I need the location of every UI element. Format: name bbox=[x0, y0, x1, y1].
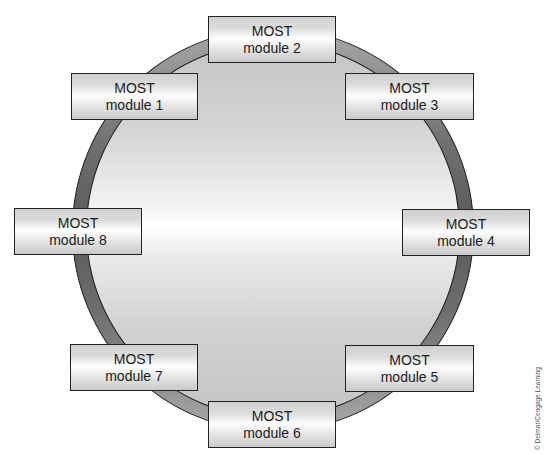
most-module-8: MOST module 8 bbox=[14, 208, 142, 255]
most-module-4: MOST module 4 bbox=[402, 209, 530, 256]
module-2-title: MOST bbox=[252, 23, 292, 40]
module-4-title: MOST bbox=[446, 216, 486, 233]
module-8-label: module 8 bbox=[49, 232, 107, 249]
most-module-6: MOST module 6 bbox=[208, 401, 336, 448]
module-3-label: module 3 bbox=[381, 97, 439, 114]
most-module-7: MOST module 7 bbox=[70, 344, 198, 391]
module-3-title: MOST bbox=[389, 80, 429, 97]
module-4-label: module 4 bbox=[437, 233, 495, 250]
most-module-1: MOST module 1 bbox=[71, 73, 198, 120]
module-1-title: MOST bbox=[114, 80, 154, 97]
module-5-label: module 5 bbox=[381, 369, 439, 386]
module-6-label: module 6 bbox=[243, 425, 301, 442]
most-module-2: MOST module 2 bbox=[208, 16, 336, 63]
copyright-notice: © Delmar/Cengage Learning bbox=[534, 367, 541, 450]
module-2-label: module 2 bbox=[243, 40, 301, 57]
module-6-title: MOST bbox=[252, 408, 292, 425]
most-module-5: MOST module 5 bbox=[345, 345, 474, 392]
module-1-label: module 1 bbox=[106, 97, 164, 114]
module-8-title: MOST bbox=[58, 215, 98, 232]
module-7-label: module 7 bbox=[105, 368, 163, 385]
most-module-3: MOST module 3 bbox=[345, 73, 474, 120]
module-7-title: MOST bbox=[114, 351, 154, 368]
module-5-title: MOST bbox=[389, 352, 429, 369]
